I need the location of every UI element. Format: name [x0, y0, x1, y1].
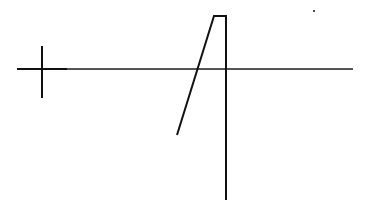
point-dot — [313, 10, 315, 12]
trace-polyline — [177, 16, 226, 200]
drawing-canvas — [0, 0, 371, 208]
